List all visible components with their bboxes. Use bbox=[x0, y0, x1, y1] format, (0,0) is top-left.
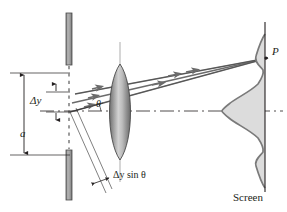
label-theta: θ bbox=[96, 99, 101, 109]
diffraction-figure: Δy a θ Δy sin θ P Screen bbox=[0, 0, 287, 212]
path-difference-construction bbox=[70, 108, 112, 193]
slit-barrier bbox=[66, 13, 72, 200]
wavefront-line-b bbox=[76, 108, 112, 189]
focus-point-marker bbox=[264, 56, 267, 59]
ray-3-arrowhead bbox=[92, 87, 100, 89]
label-screen: Screen bbox=[233, 192, 263, 203]
converging-lens bbox=[110, 64, 131, 160]
dimension-slit-width-a bbox=[10, 73, 70, 155]
label-path-difference: Δy sin θ bbox=[113, 170, 146, 180]
intensity-curve-fill bbox=[222, 34, 265, 188]
intensity-curve-group bbox=[222, 34, 265, 188]
barrier-bottom-bar bbox=[66, 150, 72, 200]
ray-2 bbox=[72, 58, 268, 103]
dimension-delta-y bbox=[46, 84, 70, 120]
barrier-top-bar bbox=[66, 13, 72, 65]
label-delta-y: Δy bbox=[30, 95, 41, 106]
path-difference-arrow bbox=[95, 178, 109, 183]
figure-canvas bbox=[0, 0, 287, 212]
label-point-p: P bbox=[272, 46, 279, 57]
lens-body bbox=[110, 64, 131, 160]
label-slit-width-a: a bbox=[20, 128, 26, 139]
ray-out-arrowhead-1 bbox=[152, 83, 162, 85]
